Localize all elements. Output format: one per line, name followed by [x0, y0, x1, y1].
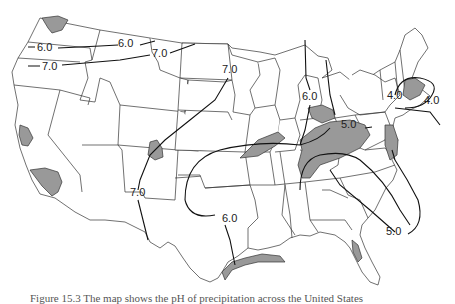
label-or-7: 7.0 [42, 60, 57, 72]
figure-caption: Figure 15.3 The map shows the pH of prec… [30, 292, 363, 304]
label-tx-6: 6.0 [222, 212, 237, 224]
label-nm-7: 7.0 [130, 186, 145, 198]
label-oh-5: 5.0 [341, 118, 356, 130]
label-mt-7: 7.0 [152, 47, 167, 59]
state-boundaries [12, 18, 430, 285]
label-mt-6: 6.0 [118, 37, 133, 49]
label-mi-6: 6.0 [302, 90, 317, 102]
label-dk-7: 7.0 [222, 63, 237, 75]
label-nw-6: 6.0 [37, 41, 52, 53]
label-ne-4a: 4.0 [387, 89, 402, 101]
label-ne-4b: 4.0 [424, 94, 439, 106]
label-se-5: 5.0 [386, 225, 401, 237]
